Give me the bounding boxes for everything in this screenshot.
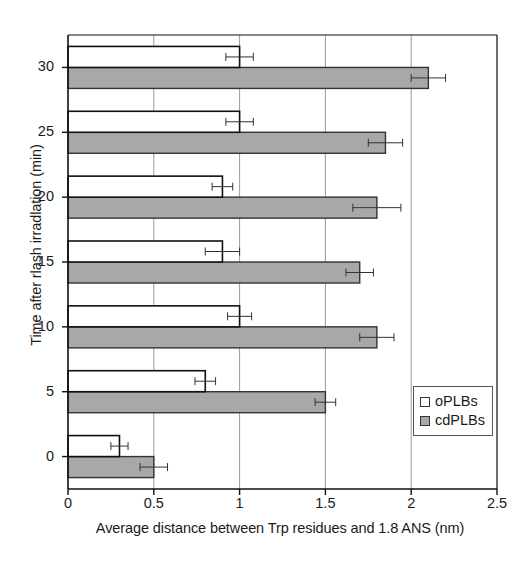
bar-cdplbs — [68, 67, 428, 88]
y-tick-label: 15 — [22, 253, 54, 269]
bar-cdplbs — [68, 327, 377, 348]
bar-cdplbs — [68, 392, 325, 413]
bar-oplbs — [68, 176, 222, 197]
y-tick-label: 0 — [22, 448, 54, 464]
bar-oplbs — [68, 111, 240, 132]
x-tick-label: 2.5 — [475, 495, 519, 511]
legend-label-oplbs: oPLBs — [435, 394, 478, 409]
legend-item-oplbs: oPLBs — [420, 392, 485, 411]
x-tick-label: 1.5 — [303, 495, 347, 511]
legend: oPLBs cdPLBs — [413, 386, 493, 436]
y-tick-label: 30 — [22, 58, 54, 74]
plot-area — [0, 0, 528, 565]
x-tick-label: 0 — [46, 495, 90, 511]
legend-swatch-cdplbs-icon — [420, 416, 430, 426]
x-tick-label: 0.5 — [132, 495, 176, 511]
bar-cdplbs — [68, 262, 360, 283]
bar-oplbs — [68, 306, 240, 327]
bar-cdplbs — [68, 197, 377, 218]
bar-oplbs — [68, 371, 205, 392]
y-tick-label: 10 — [22, 318, 54, 334]
x-tick-label: 1 — [218, 495, 262, 511]
legend-swatch-oplbs-icon — [420, 397, 430, 407]
y-tick-label: 5 — [22, 383, 54, 399]
x-axis-title: Average distance between Trp residues an… — [60, 520, 500, 536]
y-tick-label: 25 — [22, 123, 54, 139]
legend-label-cdplbs: cdPLBs — [435, 413, 485, 428]
x-tick-label: 2 — [389, 495, 433, 511]
bar-chart: Average distance between Trp residues an… — [0, 0, 528, 565]
bar-cdplbs — [68, 132, 385, 153]
y-tick-label: 20 — [22, 188, 54, 204]
bar-oplbs — [68, 46, 240, 67]
legend-item-cdplbs: cdPLBs — [420, 411, 485, 430]
bar-oplbs — [68, 241, 222, 262]
